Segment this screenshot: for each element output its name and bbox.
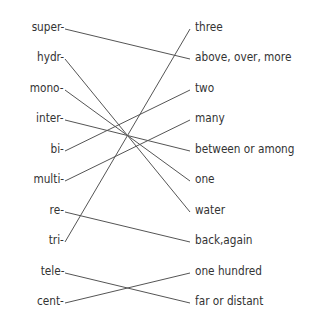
connector-line [65,29,190,242]
meaning-label[interactable]: water [195,202,225,218]
meaning-label[interactable]: between or among [195,141,294,157]
prefix-label[interactable]: multi- [33,171,64,187]
meaning-label[interactable]: one [195,171,215,187]
connector-line [65,90,190,151]
meaning-label[interactable]: many [195,110,225,126]
prefix-label[interactable]: re- [50,202,64,218]
prefix-label[interactable]: bi- [51,141,64,157]
connector-line [65,212,190,242]
connector-line [65,29,190,59]
prefix-label[interactable]: tri- [49,232,64,248]
prefix-label[interactable]: cent- [37,293,64,309]
prefix-label[interactable]: mono- [30,80,64,96]
meaning-label[interactable]: back,again [195,232,253,248]
meaning-label[interactable]: above, over, more [195,49,291,65]
meaning-label[interactable]: far or distant [195,293,263,309]
meaning-label[interactable]: one hundred [195,263,262,279]
meaning-label[interactable]: three [195,19,223,35]
prefix-label[interactable]: tele- [40,263,64,279]
meaning-label[interactable]: two [195,80,214,96]
prefix-label[interactable]: hydr- [37,49,64,65]
prefix-label[interactable]: inter- [36,110,64,126]
connector-line [65,120,190,181]
prefix-label[interactable]: super- [31,19,64,35]
